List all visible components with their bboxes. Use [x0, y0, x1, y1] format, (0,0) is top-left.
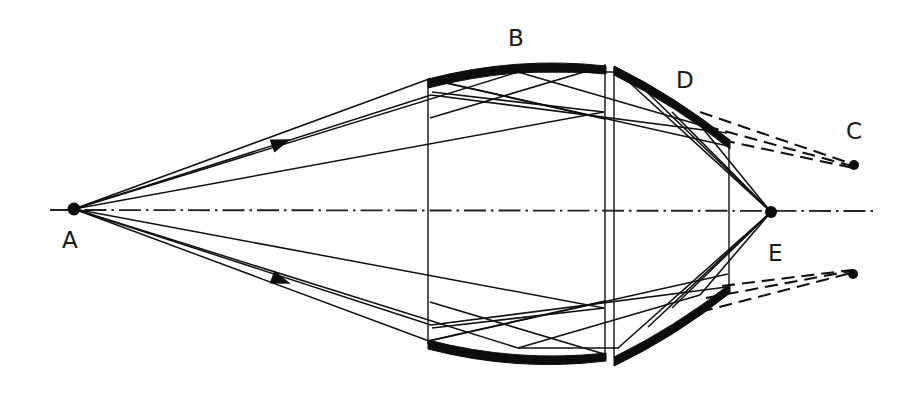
virtual-ray-c-3 — [722, 140, 853, 168]
label-a: A — [62, 227, 78, 253]
ray-b-dn-r7 — [428, 301, 605, 341]
mirror-d-band — [614, 66, 730, 149]
point-e-image-dot — [848, 269, 858, 279]
label-e: E — [768, 240, 783, 266]
ray-a-up-1 — [74, 79, 429, 209]
ray-e-focus-4 — [700, 212, 771, 295]
optical-axis-line — [50, 210, 878, 211]
ray-d-focus-3 — [672, 112, 771, 212]
point-markers — [68, 160, 860, 279]
label-d: D — [676, 67, 694, 93]
optical-axis-group — [50, 210, 878, 211]
mirror-b-lower-arc — [428, 340, 606, 365]
mirror-d-band-group — [614, 66, 730, 149]
virtual-rays-upper — [700, 112, 853, 168]
mirror-b-lower — [428, 340, 606, 365]
ray-diagram-figure: A B C D E — [0, 0, 914, 396]
rays-from-source-lower — [74, 209, 604, 348]
rays-from-source-upper — [74, 72, 604, 209]
label-c: C — [846, 118, 863, 144]
rays-lower-mirror-to-secondary — [428, 274, 728, 354]
point-a-dot — [68, 203, 81, 216]
ray-direction-arrows — [270, 133, 294, 291]
point-focus-dot — [765, 206, 777, 218]
point-c-dot — [849, 160, 859, 170]
ray-a-dn-3 — [74, 209, 518, 348]
ray-a-dn-4 — [74, 209, 604, 308]
ray-d-focus-4 — [700, 125, 771, 212]
ray-a-dn-1 — [74, 209, 429, 341]
ray-diagram-canvas: A B C D E — [0, 0, 914, 396]
label-b: B — [508, 25, 524, 51]
ray-b-up-r7 — [428, 79, 605, 119]
ray-d-focus-1 — [618, 72, 771, 212]
